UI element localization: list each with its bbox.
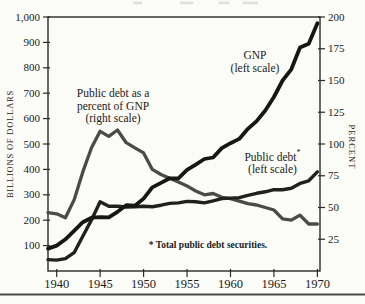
x-tick-label: 1965 [261,277,286,291]
cropped-title-remnant [243,2,258,5]
percent-series-label: Public debt as a percent of GNP (right s… [53,87,173,125]
gnp-series-label-line1: GNP [213,49,297,62]
x-tick-label: 1960 [218,277,243,291]
y-right-tick-label: 25 [328,233,340,245]
x-tick-label: 1940 [44,277,69,291]
y-right-tick-label: 50 [328,201,340,213]
y-left-tick-label: 400 [24,163,41,175]
y-left-tick-label: 600 [24,112,41,124]
figure-chart: 1002003004005006007008009001,00025507510… [0,0,365,304]
x-tick-label: 1955 [175,277,200,291]
y-left-tick-label: 800 [24,61,41,73]
public-debt-series-label-line1: Public debt* [225,150,320,163]
cropped-title-remnant [133,2,142,5]
y-right-tick-label: 200 [328,11,345,23]
y-right-tick-label: 100 [328,138,345,150]
x-tick-label: 1945 [88,277,113,291]
y-right-tick-label: 150 [328,74,345,86]
y-left-tick-label: 200 [24,214,41,226]
y-axis-left-title: BILLIONS OF DOLLARS [5,90,15,198]
x-tick-label: 1950 [131,277,156,291]
chart-footnote: * Total public debt securities. [118,240,298,250]
percent-of-gnp-line [48,130,317,224]
public-debt-series-label-line2: (left scale) [225,163,320,176]
x-tick-label: 1970 [305,277,330,291]
y-axis-right-title: PERCENT [347,125,357,170]
public-debt-series-label: Public debt* (left scale) [225,150,320,176]
gnp-series-label-line2: (left scale) [213,62,297,75]
percent-series-label-line2: percent of GNP [53,100,173,113]
footnote-marker: * [297,148,301,157]
y-left-tick-label: 700 [24,87,41,99]
y-right-tick-label: 175 [328,42,345,54]
percent-series-label-line1: Public debt as a [53,87,173,100]
y-right-tick-label: 75 [328,169,340,181]
y-right-tick-label: 125 [328,106,345,118]
cropped-title-remnant [180,2,193,5]
cropped-title-remnant [219,2,229,5]
y-left-tick-label: 500 [24,138,41,150]
gnp-series-label: GNP (left scale) [213,49,297,74]
y-left-tick-label: 1,000 [15,11,40,23]
y-left-tick-label: 300 [24,188,41,200]
percent-series-label-line3: (right scale) [53,112,173,125]
y-left-tick-label: 100 [24,239,41,251]
y-left-tick-label: 900 [24,36,41,48]
